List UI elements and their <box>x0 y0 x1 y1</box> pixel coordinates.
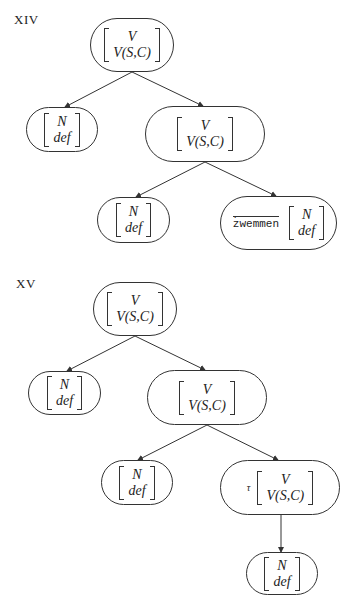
feature-matrix: V V(S,C) <box>107 292 163 326</box>
feature-value: def <box>128 483 145 499</box>
lexical-item: .zwemmen <box>233 216 279 230</box>
feature-matrix: N def <box>44 113 79 147</box>
feature-category: N <box>60 377 69 393</box>
feature-value: def <box>298 223 315 239</box>
feature-matrix: N def <box>119 466 154 500</box>
right-bracket <box>228 117 233 151</box>
feature-category: V <box>203 382 212 398</box>
right-bracket <box>146 203 151 237</box>
feature-value: V(S,C) <box>116 309 154 325</box>
dot-mark: . <box>233 211 238 220</box>
right-bracket <box>158 292 163 326</box>
feature-value: V(S,C) <box>113 45 151 61</box>
feature-category: V <box>128 29 137 45</box>
feature-value: def <box>125 220 142 236</box>
right-bracket <box>155 28 160 62</box>
feature-value: V(S,C) <box>186 134 224 150</box>
feature-value: def <box>273 574 290 590</box>
tree-node-mid: V V(S,C) <box>145 106 265 162</box>
feature-matrix: N def <box>116 203 151 237</box>
feature-value: def <box>53 130 70 146</box>
right-bracket <box>77 376 82 410</box>
tree-node-midleft: N def <box>97 197 170 243</box>
tau-symbol: τ <box>247 482 251 493</box>
tree-node-left: N def <box>26 107 98 152</box>
feature-value: V(S,C) <box>266 488 304 504</box>
figure-label-xiv: XIV <box>14 12 39 28</box>
feature-matrix: N def <box>289 206 324 240</box>
feature-matrix: V V(S,C) <box>179 381 235 415</box>
feature-category: V <box>131 293 140 309</box>
feature-category: N <box>302 207 311 223</box>
tree-node-root: V V(S,C) <box>90 18 174 72</box>
feature-matrix: V V(S,C) <box>104 28 160 62</box>
feature-category: N <box>277 558 286 574</box>
tree-node-midleft: N def <box>101 460 173 505</box>
feature-value: def <box>56 393 73 409</box>
feature-category: N <box>57 114 66 130</box>
tree-node-midright: τ V V(S,C) <box>220 460 340 515</box>
feature-matrix: N def <box>47 376 82 410</box>
tree-node-midright: .zwemmen N def <box>220 196 337 250</box>
feature-matrix: V V(S,C) <box>257 471 313 505</box>
tree-node-left: N def <box>28 371 101 415</box>
feature-matrix: V V(S,C) <box>177 117 233 151</box>
right-bracket <box>150 466 155 500</box>
feature-category: V <box>201 118 210 134</box>
figure-label-xv: XV <box>16 276 36 292</box>
feature-matrix: N def <box>264 557 299 591</box>
right-bracket <box>295 557 300 591</box>
feature-category: V <box>281 472 290 488</box>
tree-node-mid: V V(S,C) <box>147 370 267 425</box>
feature-category: N <box>129 204 138 220</box>
right-bracket <box>308 471 313 505</box>
feature-value: V(S,C) <box>188 398 226 414</box>
right-bracket <box>75 113 80 147</box>
tree-node-bottom: N def <box>246 552 318 595</box>
right-bracket <box>319 206 324 240</box>
lexical-item-text: zwemmen <box>233 218 279 230</box>
right-bracket <box>230 381 235 415</box>
feature-category: N <box>132 467 141 483</box>
tree-node-root: V V(S,C) <box>93 282 177 336</box>
